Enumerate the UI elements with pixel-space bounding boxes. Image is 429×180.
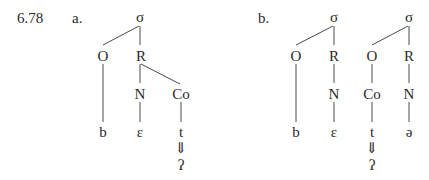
syllable-structure-diagram: 6.78 a. b. σ O R N Co b ɛ t ⇓ ʔ σ O R N … bbox=[0, 0, 429, 180]
segment-t: t bbox=[370, 124, 375, 140]
node-sigma: σ bbox=[405, 9, 413, 25]
node-rhyme: R bbox=[329, 48, 339, 64]
node-nucleus: N bbox=[329, 86, 340, 102]
branch-sigma-onset bbox=[103, 26, 139, 45]
node-rhyme: R bbox=[404, 48, 414, 64]
branch-sigma-onset bbox=[372, 26, 408, 45]
panel-b-label: b. bbox=[258, 10, 269, 26]
branch-rhyme-coda bbox=[141, 64, 180, 84]
node-onset: O bbox=[367, 48, 378, 64]
segment-glottal-stop: ʔ bbox=[369, 157, 376, 173]
node-nucleus: N bbox=[135, 86, 146, 102]
example-number: 6.78 bbox=[17, 10, 43, 26]
segment-b: b bbox=[99, 124, 107, 140]
segment-b: b bbox=[292, 124, 300, 140]
node-sigma: σ bbox=[136, 9, 144, 25]
node-coda: Co bbox=[363, 86, 381, 102]
segment-glottal-stop: ʔ bbox=[178, 157, 185, 173]
segment-t: t bbox=[179, 124, 184, 140]
node-sigma: σ bbox=[330, 9, 338, 25]
node-onset: O bbox=[98, 48, 109, 64]
node-onset: O bbox=[291, 48, 302, 64]
node-nucleus: N bbox=[404, 86, 415, 102]
segment-schwa: ə bbox=[406, 124, 413, 140]
panel-b-syllable-1: σ O R N b ɛ bbox=[291, 9, 340, 140]
segment-epsilon: ɛ bbox=[331, 124, 337, 140]
panel-a-label: a. bbox=[72, 10, 82, 26]
segment-epsilon: ɛ bbox=[137, 124, 143, 140]
node-coda: Co bbox=[172, 86, 190, 102]
node-rhyme: R bbox=[136, 48, 146, 64]
double-down-arrow-icon: ⇓ bbox=[366, 140, 379, 156]
branch-sigma-onset bbox=[296, 26, 333, 45]
panel-b-syllable-2: σ O R Co N t ə ⇓ ʔ bbox=[363, 9, 414, 173]
panel-a-tree: σ O R N Co b ɛ t ⇓ ʔ bbox=[98, 9, 190, 173]
double-down-arrow-icon: ⇓ bbox=[175, 140, 188, 156]
